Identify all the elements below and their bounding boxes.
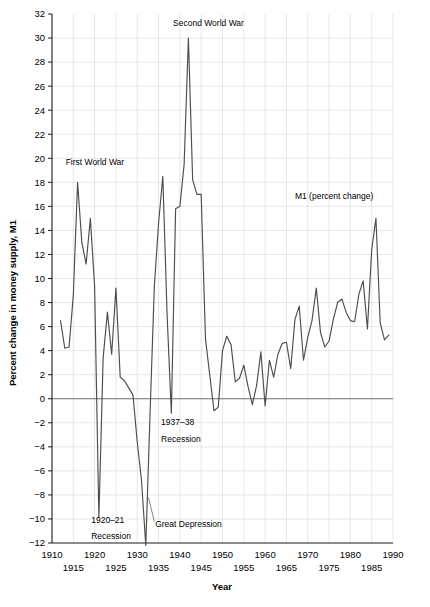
x-tick-label-minor: 1935	[148, 562, 169, 573]
y-tick-label: 4	[40, 345, 45, 356]
x-tick-label-minor: 1975	[318, 562, 339, 573]
y-tick-label: −10	[29, 513, 45, 524]
y-tick-label: 32	[34, 8, 45, 19]
y-tick-label: 20	[34, 153, 45, 164]
y-tick-label: 8	[40, 297, 45, 308]
x-tick-label-major: 1910	[41, 549, 62, 560]
y-tick-label: 30	[34, 32, 45, 43]
x-tick-label-minor: 1945	[191, 562, 212, 573]
y-tick-label: 12	[34, 249, 45, 260]
y-tick-label: 2	[40, 369, 45, 380]
y-axis-title: Percent change in money supply, M1	[7, 219, 18, 386]
x-tick-label-minor: 1985	[361, 562, 382, 573]
y-tick-label: −12	[29, 537, 45, 548]
chart-figure: −12−10−8−6−4−202468101214161820222426283…	[0, 0, 430, 607]
y-tick-label: −2	[34, 417, 45, 428]
y-tick-label: 10	[34, 273, 45, 284]
x-axis-title: Year	[212, 581, 232, 592]
y-tick-label: 22	[34, 129, 45, 140]
money-supply-line-chart: −12−10−8−6−4−202468101214161820222426283…	[0, 0, 430, 607]
y-tick-label: 24	[34, 105, 45, 116]
x-tick-label-minor: 1925	[105, 562, 126, 573]
annotation-m1-series-label: M1 (percent change)	[295, 191, 374, 201]
x-tick-label-major: 1950	[212, 549, 233, 560]
y-tick-label: −8	[34, 489, 45, 500]
x-tick-label-major: 1920	[84, 549, 105, 560]
x-tick-label-major: 1940	[169, 549, 190, 560]
y-tick-label: −6	[34, 465, 45, 476]
x-tick-label-minor: 1965	[276, 562, 297, 573]
x-tick-label-minor: 1955	[233, 562, 254, 573]
y-tick-label: 0	[40, 393, 45, 404]
annotation-recession-1937-38-line2: Recession	[161, 434, 201, 444]
x-tick-label-major: 1980	[340, 549, 361, 560]
annotation-recession-1920-21-line1: 1920–21	[91, 515, 124, 525]
annotation-second-world-war: Second World War	[173, 18, 244, 28]
y-tick-label: 28	[34, 56, 45, 67]
annotation-recession-1937-38-line1: 1937–38	[161, 417, 194, 427]
y-tick-label: 26	[34, 81, 45, 92]
x-tick-label-minor: 1915	[63, 562, 84, 573]
x-tick-label-major: 1970	[297, 549, 318, 560]
x-tick-label-major: 1930	[127, 549, 148, 560]
y-tick-label: 16	[34, 201, 45, 212]
annotation-first-world-war: First World War	[66, 157, 125, 167]
y-tick-label: 14	[34, 225, 45, 236]
x-tick-label-major: 1990	[382, 549, 403, 560]
y-tick-label: 18	[34, 177, 45, 188]
x-tick-label-major: 1960	[255, 549, 276, 560]
y-tick-label: 6	[40, 321, 45, 332]
annotation-great-depression: Great Depression	[155, 519, 222, 529]
y-tick-label: −4	[34, 441, 45, 452]
annotation-recession-1920-21-line2: Recession	[91, 531, 131, 541]
